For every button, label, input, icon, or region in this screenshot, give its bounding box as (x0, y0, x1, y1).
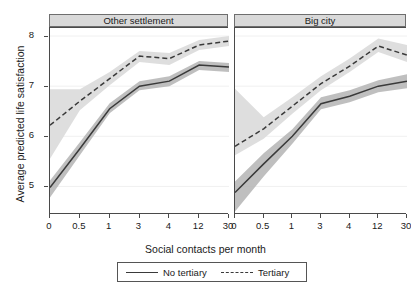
x-axis-tick-label: 0 (46, 220, 51, 231)
x-axis-tick-label: 1 (289, 220, 294, 231)
confidence-band (50, 36, 229, 159)
x-axis-tick-label: 4 (346, 220, 351, 231)
x-axis-tick-mark (49, 214, 50, 218)
y-axis-tick-label: 7 (22, 80, 34, 90)
x-axis-tick-mark (228, 214, 229, 218)
x-axis-tick-mark (139, 214, 140, 218)
x-axis-tick-label: 12 (372, 220, 383, 231)
x-axis-tick-mark (109, 214, 110, 218)
legend-entry-tertiary: Tertiary (221, 263, 289, 281)
x-axis-tick-mark (291, 214, 292, 218)
y-axis-tick-mark (44, 136, 48, 137)
confidence-band (235, 39, 407, 156)
y-axis-tick-label: 8 (22, 30, 34, 40)
x-axis-tick-mark (79, 214, 80, 218)
panel-big-city: Big city (234, 14, 406, 214)
legend-entry-no-tertiary: No tertiary (126, 263, 207, 281)
x-axis-tick-mark (377, 214, 378, 218)
y-axis-tick-mark (44, 186, 48, 187)
chart-legend: No tertiary Tertiary (117, 262, 307, 282)
x-axis-tick-mark (320, 214, 321, 218)
legend-label-tertiary: Tertiary (258, 267, 289, 278)
y-axis-tick-mark (44, 86, 48, 87)
legend-line-dashed-icon (221, 267, 253, 277)
x-axis-tick-label: 3 (136, 220, 141, 231)
legend-label-no-tertiary: No tertiary (163, 267, 207, 278)
x-axis-tick-mark (168, 214, 169, 218)
confidence-band (50, 61, 229, 197)
x-axis-tick-label: 0.5 (72, 220, 85, 231)
x-axis-tick-label: 12 (193, 220, 204, 231)
x-axis-tick-label: 0.5 (256, 220, 269, 231)
panel-other-settlement: Other settlement (49, 14, 228, 214)
x-axis-tick-label: 1 (106, 220, 111, 231)
x-axis-tick-label: 0 (231, 220, 236, 231)
x-axis-tick-mark (198, 214, 199, 218)
x-axis-tick-mark (263, 214, 264, 218)
panel-title-other-settlement: Other settlement (49, 14, 228, 27)
x-axis-tick-mark (349, 214, 350, 218)
plot-top-rule (234, 27, 406, 28)
chart-figure: Average predicted life satisfaction 5678… (0, 0, 411, 291)
x-axis-label: Social contacts per month (0, 243, 411, 255)
x-axis-tick-mark (234, 214, 235, 218)
confidence-band (235, 74, 407, 211)
plot-svg (235, 27, 407, 214)
plot-area-other-settlement (49, 27, 228, 214)
plot-area-big-city (234, 27, 406, 214)
panel-title-big-city: Big city (234, 14, 406, 27)
x-axis-tick-label: 30 (401, 220, 411, 231)
x-axis-tick-mark (406, 214, 407, 218)
y-axis-tick-mark (44, 36, 48, 37)
x-axis-tick-label: 3 (317, 220, 322, 231)
x-axis-tick-label: 4 (166, 220, 171, 231)
legend-line-solid-icon (126, 267, 158, 277)
y-axis-tick-label: 5 (22, 180, 34, 190)
y-axis-label: Average predicted life satisfaction (14, 24, 26, 224)
y-axis-tick-label: 6 (22, 130, 34, 140)
plot-svg (50, 27, 229, 214)
plot-top-rule (49, 27, 228, 28)
